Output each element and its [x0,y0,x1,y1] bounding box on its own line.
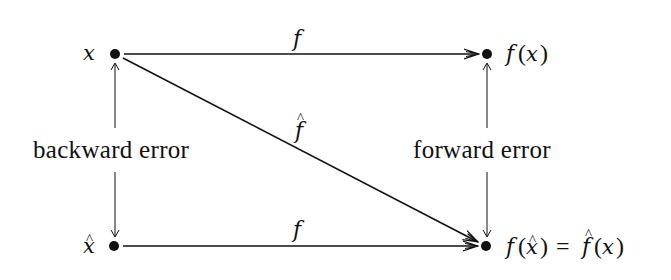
svg-text:(: ( [594,233,602,259]
svg-text:^: ^ [585,226,592,242]
label-x: x [83,41,95,65]
backward-error-label: backward error [33,136,190,163]
svg-text:): ) [616,233,624,259]
edge-label-diag-fhat: f ^ [293,110,307,143]
label-xhat: x ^ [83,231,95,258]
svg-text:x: x [602,235,614,259]
forward-error-label: forward error [413,136,551,163]
node-xhat [109,241,119,251]
node-fx [482,49,492,59]
edge-label-bottom-f: f [291,217,305,242]
svg-text:^: ^ [297,110,304,126]
svg-text:f: f [504,41,518,66]
error-diagram: x f ( x ) x ^ f f ^ f f ( x ^ ) = f ^ ( … [0,0,671,280]
label-fxhat-equals-fhatx: f ( x ^ ) = f ^ ( x ) [504,226,624,259]
svg-text:(: ( [518,233,526,259]
svg-text:): ) [540,40,548,66]
svg-text:^: ^ [86,231,93,247]
svg-text:f: f [504,234,518,259]
svg-text:x: x [526,42,538,66]
node-x [110,49,120,59]
svg-text:(: ( [518,40,526,66]
svg-text:): ) [540,233,548,259]
edge-label-top-f: f [291,26,305,51]
label-fx: f ( x ) [504,40,548,66]
svg-text:^: ^ [529,232,536,248]
svg-text:=: = [556,233,570,259]
node-fxhat [481,241,491,251]
